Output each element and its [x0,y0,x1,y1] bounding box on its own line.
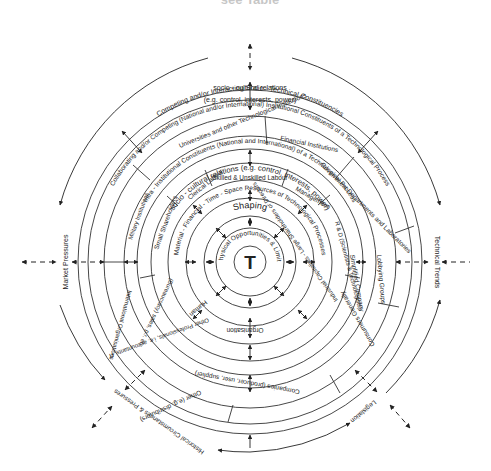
arc-bottom-right-2 [250,423,350,452]
ring4-organisation: Organisation [226,326,263,334]
sociotechnical-diagram: see Table [0,0,491,471]
sector-lobbying: Lobbying Groups [375,254,387,305]
arc-bottom-center [218,450,250,452]
arc-top-right [292,58,440,205]
force-market-pressures: Market Pressures [62,234,69,289]
ring1-label: Physical Opportunities & Limits [0,0,283,262]
outer-relations: socio - cultural relations [213,84,287,91]
title-fragment: see Table [221,0,279,7]
sector-labour: Skilled & Unskilled Labour [212,174,288,181]
center-label: T [244,252,256,273]
arc-bottom-right [386,300,440,393]
arc-top-left [60,58,208,205]
ring7-dividers [104,116,414,422]
force-legislation: Legislation [349,398,378,424]
force-technical-trends: Technical Trends [434,236,441,289]
sector-companies: Companies (producer, user, supplier) [194,370,300,396]
